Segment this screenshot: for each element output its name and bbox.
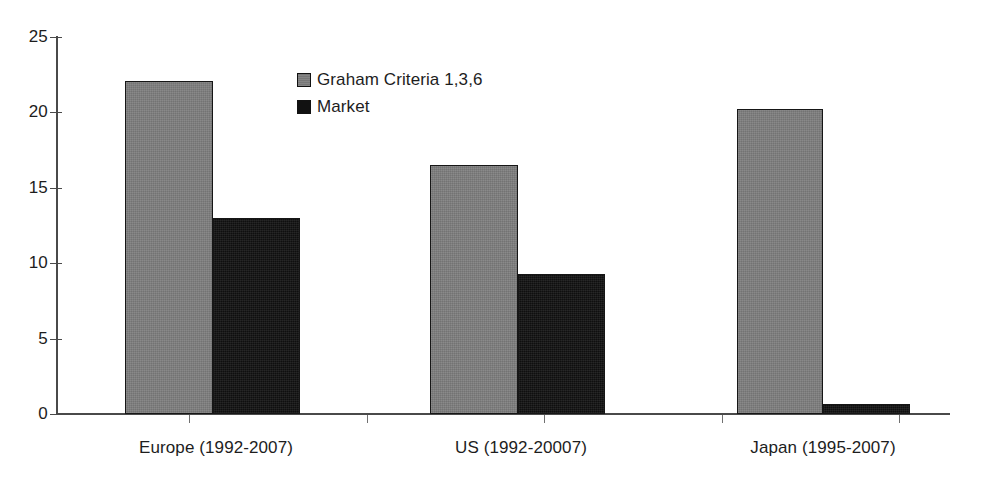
bar-chart: 25 20 15 10 5 0 (0, 0, 1001, 481)
x-axis-label-europe: Europe (1992-2007) (101, 438, 331, 458)
x-axis-label-us: US (1992-20007) (406, 438, 636, 458)
bar-europe-graham[interactable] (125, 81, 213, 414)
bar-us-market[interactable] (518, 274, 605, 414)
legend-label: Graham Criteria 1,3,6 (317, 71, 483, 89)
legend-item-market[interactable]: Market (297, 93, 483, 120)
y-tick-label: 15 (4, 179, 48, 196)
bar-europe-market[interactable] (213, 218, 300, 414)
gray-swatch-icon (297, 73, 311, 87)
bar-us-graham[interactable] (430, 165, 518, 414)
y-tick-label: 20 (4, 103, 48, 120)
black-swatch-icon (297, 100, 311, 114)
x-tick-mark (899, 415, 900, 423)
x-tick-mark (189, 415, 190, 423)
legend-item-graham-criteria[interactable]: Graham Criteria 1,3,6 (297, 66, 483, 93)
x-tick-mark (367, 415, 368, 423)
x-tick-mark (722, 415, 723, 423)
bar-japan-graham[interactable] (737, 109, 823, 414)
y-tick-label: 10 (4, 254, 48, 271)
chart-legend: Graham Criteria 1,3,6 Market (297, 66, 483, 120)
x-tick-mark (544, 415, 545, 423)
y-tick-label: 25 (4, 28, 48, 45)
plot-area (57, 37, 950, 414)
y-tick-label: 0 (4, 405, 48, 422)
legend-label: Market (317, 98, 370, 116)
bar-japan-market[interactable] (823, 404, 910, 414)
y-tick-label: 5 (4, 330, 48, 347)
x-axis-label-japan: Japan (1995-2007) (708, 438, 938, 458)
